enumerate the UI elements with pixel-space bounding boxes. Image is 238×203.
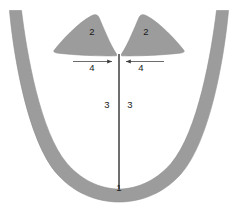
label-right-measure: 4 xyxy=(138,62,143,73)
label-left-midline: 3 xyxy=(104,99,109,110)
label-right-wing: 2 xyxy=(143,26,148,37)
diagram-canvas: 2 2 4 4 3 3 1 xyxy=(0,0,238,203)
anatomical-diagram: 2 2 4 4 3 3 1 xyxy=(0,0,238,203)
label-left-wing: 2 xyxy=(89,26,94,37)
label-right-midline: 3 xyxy=(127,99,132,110)
label-arch: 1 xyxy=(116,182,121,193)
label-left-measure: 4 xyxy=(89,62,94,73)
